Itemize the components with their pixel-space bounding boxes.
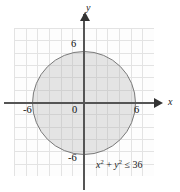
origin-label: 0 xyxy=(72,104,77,115)
y-tick-label-positive-6: 6 xyxy=(71,38,76,49)
y-axis-label: y xyxy=(86,2,90,13)
y-axis-arrow-icon xyxy=(80,12,90,21)
equation-relation: ≤ xyxy=(122,159,133,170)
inequality-annotation: x2 + y2 ≤ 36 xyxy=(96,158,143,170)
x-axis-label: x xyxy=(168,96,172,107)
y-axis-line xyxy=(83,14,85,190)
x-axis-arrow-icon xyxy=(154,98,163,108)
y-tick-label-negative-6: -6 xyxy=(68,152,77,163)
x-tick-label-positive-6: 6 xyxy=(134,104,139,115)
x-tick-label-negative-6: -6 xyxy=(23,104,32,115)
equation-plus: + xyxy=(104,159,115,170)
equation-value: 36 xyxy=(133,159,143,170)
graph-figure: x y -6 6 6 -6 0 x2 + y2 ≤ 36 xyxy=(0,0,180,192)
